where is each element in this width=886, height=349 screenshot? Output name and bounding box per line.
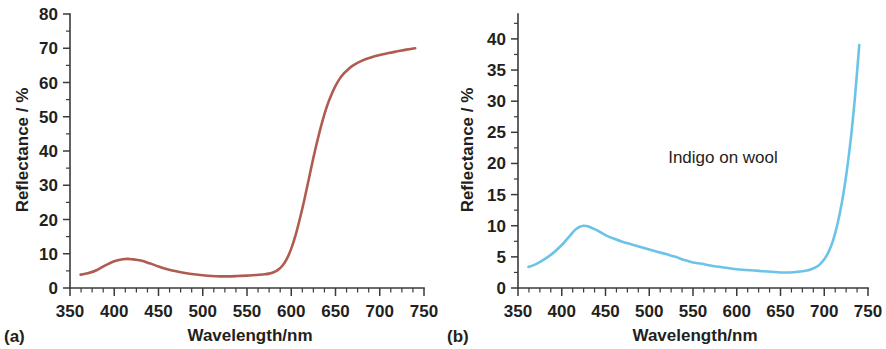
y-tick-label-b: 20 bbox=[487, 154, 506, 173]
x-tick-label-b: 650 bbox=[766, 302, 794, 321]
panel-label-b: (b) bbox=[447, 327, 469, 346]
y-tick-label-a: 10 bbox=[39, 245, 58, 264]
y-tick-label-a: 60 bbox=[39, 74, 58, 93]
y-axis-title-a: Reflectance / % bbox=[13, 88, 32, 213]
x-tick-label-a: 500 bbox=[189, 302, 217, 321]
y-tick-label-a: 20 bbox=[39, 211, 58, 230]
x-tick-label-a: 550 bbox=[233, 302, 261, 321]
y-tick-label-b: 0 bbox=[497, 279, 506, 298]
data-curve-a bbox=[81, 48, 416, 276]
x-axis-title-b: Wavelength/nm bbox=[633, 326, 758, 345]
y-tick-label-a: 70 bbox=[39, 39, 58, 58]
x-tick-label-a: 450 bbox=[144, 302, 172, 321]
y-tick-label-b: 35 bbox=[487, 61, 506, 80]
x-tick-label-a: 700 bbox=[366, 302, 394, 321]
panel-label-a: (a) bbox=[4, 327, 25, 346]
y-tick-label-b: 10 bbox=[487, 217, 506, 236]
x-tick-labels-a: 350400450500550600650700750 bbox=[56, 302, 438, 321]
y-tick-label-b: 30 bbox=[487, 92, 506, 111]
x-tick-label-b: 350 bbox=[504, 302, 532, 321]
x-tick-label-a: 350 bbox=[56, 302, 84, 321]
y-tick-label-b: 25 bbox=[487, 123, 506, 142]
y-tick-label-b: 15 bbox=[487, 186, 506, 205]
y-tick-label-b: 40 bbox=[487, 30, 506, 49]
y-tick-labels-a: 01020304050607080 bbox=[39, 5, 58, 298]
chart-svg-b: Reflectance / % 0510152025303540 3504004… bbox=[443, 0, 886, 349]
y-tick-label-a: 80 bbox=[39, 5, 58, 24]
y-axis-title-text-a: Reflectance / % bbox=[13, 88, 32, 213]
x-tick-label-b: 550 bbox=[679, 302, 707, 321]
chart-svg-a: Reflectance / % 01020304050607080 350400… bbox=[0, 0, 443, 349]
x-tick-label-b: 450 bbox=[591, 302, 619, 321]
x-tick-label-b: 750 bbox=[854, 302, 882, 321]
y-tick-label-a: 30 bbox=[39, 176, 58, 195]
x-tick-label-b: 700 bbox=[810, 302, 838, 321]
x-tick-label-b: 400 bbox=[548, 302, 576, 321]
axes-a bbox=[63, 14, 424, 296]
x-tick-label-a: 750 bbox=[410, 302, 438, 321]
x-axis-title-a: Wavelength/nm bbox=[188, 326, 313, 345]
reflectance-spectra-figure: Reflectance / % 01020304050607080 350400… bbox=[0, 0, 886, 349]
x-tick-labels-b: 350400450500550600650700750 bbox=[504, 302, 882, 321]
y-tick-label-a: 40 bbox=[39, 142, 58, 161]
chart-panel-b: Reflectance / % 0510152025303540 3504004… bbox=[443, 0, 886, 349]
x-tick-label-a: 650 bbox=[321, 302, 349, 321]
y-axis-title-b: Reflectance / % bbox=[458, 88, 477, 213]
chart-panel-a: Reflectance / % 01020304050607080 350400… bbox=[0, 0, 443, 349]
x-tick-label-b: 600 bbox=[723, 302, 751, 321]
y-axis-title-text-b: Reflectance / % bbox=[458, 88, 477, 213]
y-tick-labels-b: 0510152025303540 bbox=[487, 30, 506, 298]
chart-annotation-b: Indigo on wool bbox=[668, 148, 778, 167]
y-tick-label-a: 0 bbox=[49, 279, 58, 298]
y-tick-label-b: 5 bbox=[497, 248, 506, 267]
x-tick-label-b: 500 bbox=[635, 302, 663, 321]
x-tick-label-a: 400 bbox=[100, 302, 128, 321]
x-tick-label-a: 600 bbox=[277, 302, 305, 321]
y-tick-label-a: 50 bbox=[39, 108, 58, 127]
